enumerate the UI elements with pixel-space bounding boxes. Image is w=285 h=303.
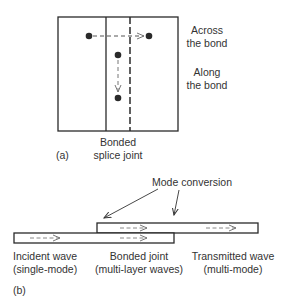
across-bond-path <box>86 33 153 40</box>
label-incident-wave: Incident wave (single-mode) <box>13 250 77 275</box>
label-across-the-bond: Across the bond <box>182 24 232 49</box>
label-along-the-bond: Along the bond <box>182 66 232 91</box>
panel-b-tag: (b) <box>13 284 26 297</box>
transducer-dot <box>115 52 122 59</box>
panel-a-tag: (a) <box>56 149 69 162</box>
along-bond-path <box>115 52 122 102</box>
lower-plate <box>14 233 174 243</box>
label-mode-conversion: Mode conversion <box>152 176 232 189</box>
label-transmitted-wave: Transmitted wave (multi-mode) <box>189 250 277 275</box>
upper-plate <box>97 223 258 233</box>
receiver-dot <box>146 33 153 40</box>
label-bonded-splice-joint: Bonded splice joint <box>85 136 151 161</box>
label-bonded-joint: Bonded joint (multi-layer waves) <box>93 250 185 275</box>
transducer-dot <box>86 33 93 40</box>
receiver-dot <box>115 95 122 102</box>
mode-conversion-arrows <box>104 189 179 218</box>
